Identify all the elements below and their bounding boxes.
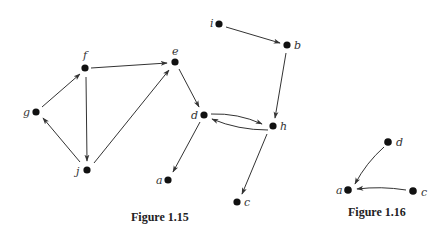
label-i: i <box>210 17 214 30</box>
label-e: e <box>172 45 179 58</box>
label-a: a <box>336 184 343 197</box>
node-d <box>384 138 392 146</box>
edge-h-c <box>242 134 267 194</box>
label-d: d <box>191 109 198 122</box>
node-c <box>233 198 240 205</box>
edge-f-e <box>91 63 167 68</box>
label-a: a <box>156 174 163 187</box>
node-i <box>215 20 222 27</box>
edge-f-j <box>86 77 87 161</box>
edge-b-h <box>275 53 286 118</box>
node-b <box>283 41 290 48</box>
edge-j-g <box>43 118 80 162</box>
node-a <box>164 176 171 183</box>
edge-i-b <box>226 27 280 43</box>
edge-d-h <box>211 114 262 124</box>
node-a <box>344 186 352 194</box>
edge-j-e <box>94 70 169 163</box>
label-g: g <box>23 106 30 119</box>
edge-g-f <box>42 74 80 107</box>
edge-d-a <box>355 147 384 184</box>
node-f <box>81 64 88 71</box>
node-h <box>269 122 276 129</box>
edge-e-d <box>179 69 199 107</box>
node-d <box>200 111 207 118</box>
graph-diagrams: i b e f g d h j a c Figure 1.15 d a c Fi… <box>0 0 446 232</box>
label-c: c <box>244 196 250 209</box>
edge-c-a <box>357 188 406 190</box>
figure-caption: Figure 1.15 <box>131 210 189 224</box>
edge-d-a <box>173 122 200 172</box>
label-b: b <box>294 39 301 52</box>
label-f: f <box>82 49 89 62</box>
label-d: d <box>396 136 403 149</box>
figure-1-15: i b e f g d h j a c Figure 1.15 <box>23 17 301 224</box>
node-g <box>32 108 39 115</box>
edge-h-d <box>212 119 268 130</box>
figure-1-16: d a c Figure 1.16 <box>336 136 427 219</box>
label-h: h <box>280 120 287 133</box>
label-c: c <box>421 186 427 199</box>
node-e <box>171 58 178 65</box>
node-j <box>83 166 90 173</box>
figure-caption: Figure 1.16 <box>348 205 406 219</box>
label-j: j <box>73 165 80 178</box>
node-c <box>409 187 417 195</box>
